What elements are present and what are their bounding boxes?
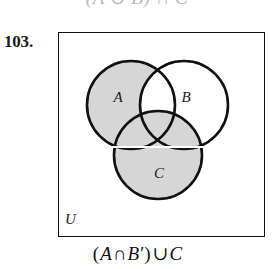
circle-b-label: B — [181, 89, 190, 105]
expr-close-paren: ) — [143, 243, 151, 264]
scan-artifact-line — [96, 146, 224, 148]
expr-set-c: C — [170, 243, 183, 264]
universe-label: U — [65, 211, 76, 228]
set-expression: (A∩B′)∪C — [0, 242, 274, 265]
expr-union-symbol: ∪ — [152, 243, 170, 264]
cutoff-header-text: (A ∪ B) ∩ C — [0, 0, 274, 8]
venn-diagram: A B C — [58, 32, 265, 237]
problem-number: 103. — [4, 32, 33, 52]
expr-intersect-symbol: ∩ — [112, 243, 128, 264]
circle-c-label: C — [154, 165, 165, 181]
expr-open-paren: ( — [92, 243, 100, 264]
worksheet-page: (A ∪ B) ∩ C 103. A B C — [0, 0, 274, 269]
expr-set-b-complement: B′ — [127, 243, 143, 264]
circle-a-label: A — [112, 89, 123, 105]
expr-set-a: A — [100, 243, 112, 264]
